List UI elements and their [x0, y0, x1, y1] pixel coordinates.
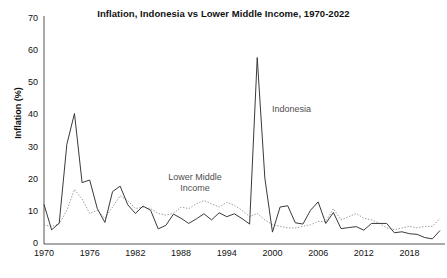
annotation-lower-middle-income: Lower Middle Income — [150, 172, 240, 194]
annotation-lmi-line1: Lower Middle — [168, 172, 222, 182]
annotation-indonesia: Indonesia — [272, 104, 342, 115]
annotation-lmi-line2: Income — [180, 183, 210, 193]
plot-area — [0, 0, 447, 278]
chart-container: Inflation, Indonesia vs Lower Middle Inc… — [0, 0, 447, 278]
series-line-indonesia — [44, 58, 440, 239]
